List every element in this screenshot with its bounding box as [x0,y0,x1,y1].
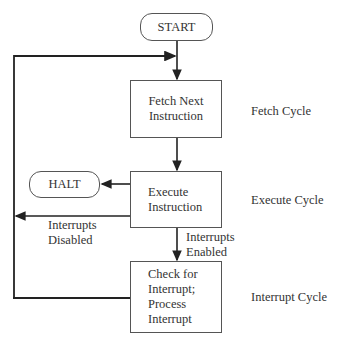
interrupts-enabled-label: Interrupts Enabled [186,230,235,260]
interrupt-label: Check for Interrupt; Process Interrupt [148,267,198,327]
start-node: START [140,13,213,41]
fetch-label: Fetch Next Instruction [148,94,203,124]
interrupts-disabled-label: Interrupts Disabled [48,218,97,248]
halt-node: HALT [29,171,100,198]
interrupt-cycle-label: Interrupt Cycle [251,290,327,305]
execute-cycle-label: Execute Cycle [251,193,324,208]
execute-label: Execute Instruction [148,185,202,215]
fetch-cycle-label: Fetch Cycle [251,104,311,119]
halt-label: HALT [48,177,80,192]
execute-node: Execute Instruction [130,171,222,228]
start-label: START [158,20,196,35]
interrupt-node: Check for Interrupt; Process Interrupt [130,261,222,333]
fetch-node: Fetch Next Instruction [130,80,222,138]
